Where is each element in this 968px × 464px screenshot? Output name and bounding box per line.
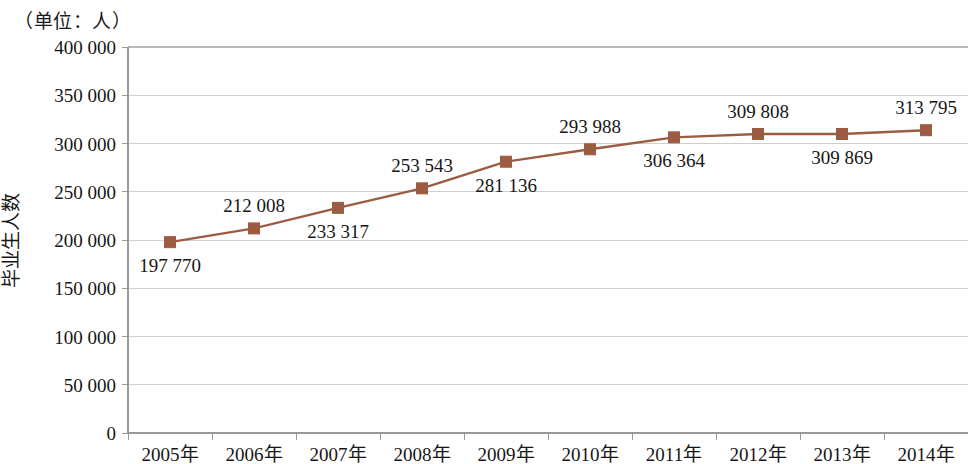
x-tick-label: 2010年	[562, 444, 619, 464]
y-tick-label: 50 000	[64, 375, 116, 396]
x-tick-label: 2012年	[730, 444, 787, 464]
data-point-label: 293 988	[559, 116, 621, 137]
y-tick-label: 200 000	[54, 230, 116, 251]
data-point-marker	[165, 237, 176, 248]
y-axis-tick-labels: 050 000100 000150 000200 000250 000300 0…	[54, 37, 116, 444]
data-point-marker	[417, 183, 428, 194]
y-tick-label: 250 000	[54, 182, 116, 203]
data-point-marker	[837, 128, 848, 139]
data-point-marker	[669, 132, 680, 143]
y-tick-label: 100 000	[54, 327, 116, 348]
data-point-marker	[753, 129, 764, 140]
y-axis-title: 毕业生人数	[1, 193, 22, 288]
x-tick-label: 2007年	[310, 444, 367, 464]
data-point-marker	[501, 156, 512, 167]
data-point-marker	[249, 223, 260, 234]
x-tick-label: 2009年	[478, 444, 535, 464]
data-point-label: 233 317	[307, 221, 369, 242]
data-point-marker	[921, 125, 932, 136]
chart-plot-svg: 050 000100 000150 000200 000250 000300 0…	[0, 0, 968, 464]
data-point-label: 313 795	[895, 97, 957, 118]
x-tick-label: 2013年	[814, 444, 871, 464]
y-tick-label: 300 000	[54, 134, 116, 155]
gridlines-group	[128, 47, 968, 433]
data-point-label: 281 136	[475, 175, 537, 196]
data-point-marker	[333, 202, 344, 213]
x-tick-label: 2006年	[226, 444, 283, 464]
tickmarks-group	[122, 47, 968, 440]
data-point-labels-group: 197 770212 008233 317253 543281 136293 9…	[139, 97, 957, 276]
x-tick-label: 2014年	[898, 444, 955, 464]
x-tick-label: 2005年	[142, 444, 199, 464]
y-axis-title-group: 毕业生人数	[1, 193, 22, 288]
data-point-label: 306 364	[643, 150, 705, 171]
data-point-label: 309 808	[727, 101, 789, 122]
data-point-label: 212 008	[223, 195, 285, 216]
data-point-label: 197 770	[139, 255, 201, 276]
data-point-label: 309 869	[811, 147, 873, 168]
y-tick-label: 0	[107, 423, 117, 444]
x-tick-label: 2011年	[646, 444, 702, 464]
y-tick-label: 350 000	[54, 85, 116, 106]
data-point-marker	[585, 144, 596, 155]
data-point-label: 253 543	[391, 155, 453, 176]
graduates-line-chart: （单位：人） 050 000100 000150 000200 000250 0…	[0, 0, 968, 464]
y-tick-label: 150 000	[54, 278, 116, 299]
x-tick-label: 2008年	[394, 444, 451, 464]
y-tick-label: 400 000	[54, 37, 116, 58]
x-axis-tick-labels: 2005年2006年2007年2008年2009年2010年2011年2012年…	[142, 444, 955, 464]
